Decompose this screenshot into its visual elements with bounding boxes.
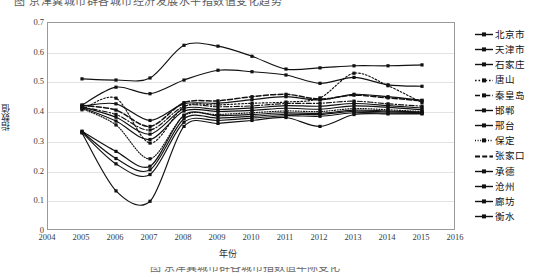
data-point [114, 108, 117, 111]
data-point [80, 131, 83, 134]
data-point [148, 125, 151, 128]
data-point [284, 73, 287, 76]
data-point [420, 112, 423, 115]
legend-label: 保定 [495, 136, 515, 146]
data-point [114, 119, 117, 122]
data-point [386, 84, 389, 87]
data-point [114, 157, 117, 160]
y-tick-0.5: 0.5 [14, 77, 44, 86]
legend-key-icon [474, 196, 494, 207]
legend-label: 秦皇岛 [495, 91, 525, 101]
legend-key-icon [474, 211, 494, 222]
bottom-caption-sliver: 图 京津冀城市群各城市指数值年际变化 [0, 267, 548, 277]
legend-label: 唐山 [495, 75, 515, 85]
legend-key-icon [474, 105, 494, 116]
legend-key-icon [474, 75, 494, 86]
data-point [216, 119, 219, 122]
plot-area [47, 22, 455, 230]
data-point [114, 123, 117, 126]
legend-item-北京市[interactable]: 北京市 [474, 27, 548, 42]
legend-label: 天津市 [495, 45, 525, 55]
legend-label: 承德 [495, 167, 515, 177]
data-point [216, 99, 219, 102]
legend-item-天津市[interactable]: 天津市 [474, 42, 548, 57]
legend-label: 衡水 [495, 212, 515, 222]
data-point [114, 162, 117, 165]
legend-item-衡水[interactable]: 衡水 [474, 209, 548, 224]
data-point [148, 119, 151, 122]
data-point [182, 114, 185, 117]
data-point [318, 115, 321, 118]
data-point [148, 138, 151, 141]
legend-key-icon [474, 59, 494, 70]
data-point [182, 121, 185, 124]
legend-item-保定[interactable]: 保定 [474, 133, 548, 148]
data-point [420, 85, 423, 88]
data-point [250, 95, 253, 98]
data-point [148, 157, 151, 160]
data-point [148, 92, 151, 95]
data-point [148, 200, 151, 203]
legend-label: 张家口 [495, 151, 525, 161]
y-axis-ticks: 0.70.60.50.40.30.20.10 [6, 22, 44, 230]
legend-item-廊坊[interactable]: 廊坊 [474, 194, 548, 209]
legend-item-邯郸[interactable]: 邯郸 [474, 103, 548, 118]
legend-item-承德[interactable]: 承德 [474, 164, 548, 179]
legend-item-秦皇岛[interactable]: 秦皇岛 [474, 88, 548, 103]
data-point [182, 117, 185, 120]
data-point [114, 150, 117, 153]
data-point [284, 67, 287, 70]
legend-label: 邯郸 [495, 106, 515, 116]
legend-key-icon [474, 181, 494, 192]
x-axis-ticks: 2004200520062007200820092010201120122013… [0, 233, 548, 247]
x-axis-label: 年份 [0, 247, 455, 260]
data-point [352, 94, 355, 97]
chart-page: 图 京津冀城市群各城市经济发展水平指数值变化趋势 0.70.60.50.40.3… [0, 0, 548, 277]
data-point [114, 78, 117, 81]
y-tick-0.1: 0.1 [14, 196, 44, 205]
legend-key-icon [474, 44, 494, 55]
data-point [148, 76, 151, 79]
data-point [114, 102, 117, 105]
y-axis-label: 指数值 [0, 104, 11, 131]
data-point [420, 63, 423, 66]
data-point [250, 119, 253, 122]
x-tick-2016: 2016 [435, 233, 475, 242]
series-北京市 [80, 43, 423, 82]
y-tick-0.7: 0.7 [14, 18, 44, 27]
data-point [318, 82, 321, 85]
data-point [352, 76, 355, 79]
data-point [80, 77, 83, 80]
top-caption-text: 图 京津冀城市群各城市经济发展水平指数值变化趋势 [14, 0, 283, 8]
data-point [386, 64, 389, 67]
data-point [80, 104, 83, 107]
data-point [114, 86, 117, 89]
legend-item-沧州[interactable]: 沧州 [474, 179, 548, 194]
data-point [148, 173, 151, 176]
y-tick-0.3: 0.3 [14, 137, 44, 146]
data-point [148, 165, 151, 168]
data-point [284, 93, 287, 96]
data-point [182, 44, 185, 47]
data-point [182, 78, 185, 81]
legend-key-icon [474, 135, 494, 146]
data-point [386, 112, 389, 115]
legend-key-icon [474, 166, 494, 177]
data-point [80, 107, 83, 110]
legend-label: 石家庄 [495, 60, 525, 70]
legend-item-石家庄[interactable]: 石家庄 [474, 57, 548, 72]
data-point [420, 99, 423, 102]
data-point [148, 168, 151, 171]
legend-key-icon [474, 90, 494, 101]
data-point [114, 189, 117, 192]
legend-item-唐山[interactable]: 唐山 [474, 73, 548, 88]
legend-item-张家口[interactable]: 张家口 [474, 149, 548, 164]
legend: 北京市天津市石家庄唐山秦皇岛邯郸邢台保定张家口承德沧州廊坊衡水 [474, 27, 548, 224]
y-tick-0.2: 0.2 [14, 167, 44, 176]
y-tick-0.6: 0.6 [14, 48, 44, 57]
data-point [148, 133, 151, 136]
data-point [114, 97, 117, 100]
legend-label: 沧州 [495, 182, 515, 192]
data-point [352, 64, 355, 67]
legend-item-邢台[interactable]: 邢台 [474, 118, 548, 133]
